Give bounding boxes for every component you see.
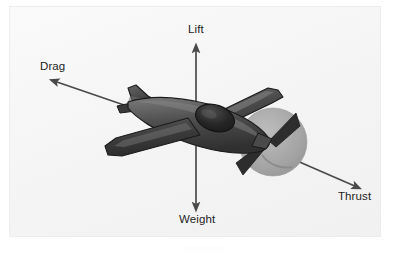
label-lift: Lift (188, 24, 204, 36)
label-weight: Weight (179, 214, 215, 226)
label-thrust: Thrust (338, 191, 371, 203)
forces-of-flight-diagram: Lift Drag Thrust Weight (0, 0, 404, 256)
drag-arrow (54, 81, 124, 105)
caption-smudge (183, 246, 223, 253)
airplane-icon (105, 85, 307, 176)
label-drag: Drag (40, 61, 65, 73)
